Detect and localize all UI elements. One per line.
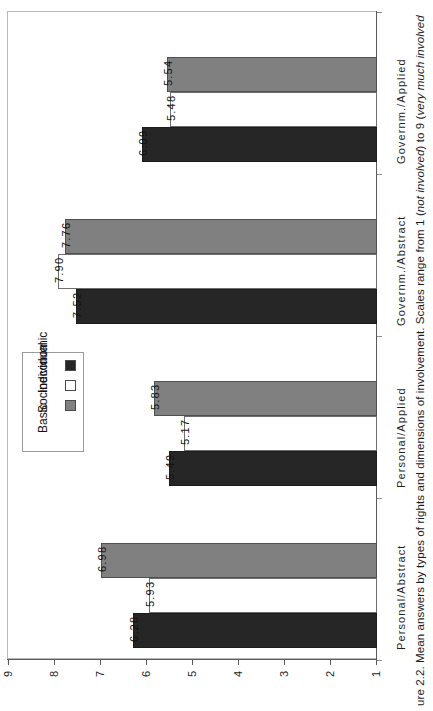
bar-label-governm-applied-basic: 5.54 <box>162 60 174 86</box>
bar-personal-abstract-basic <box>101 543 377 578</box>
value-tick-label-4: 4 <box>232 663 244 685</box>
bar-label-personal-abstract-individual: 6.28 <box>128 616 140 642</box>
bar-label-governm-abstract-individual: 7.52 <box>71 292 83 318</box>
bar-label-personal-abstract-socioeconomic: 5.93 <box>144 581 156 607</box>
bar-governm-abstract-individual <box>76 289 377 324</box>
bar-personal-applied-individual <box>169 451 377 486</box>
legend-item-basic: Basic <box>23 397 85 417</box>
category-label-governm-abstract: Governm./Abstract <box>395 216 407 326</box>
category-tick-4 <box>377 12 382 13</box>
bar-label-personal-applied-socioeconomic: 5.17 <box>179 419 191 445</box>
category-label-governm-applied: Governm./Applied <box>395 58 407 164</box>
legend: Individual Socioeconomic Basic <box>22 352 84 452</box>
bar-label-personal-abstract-basic: 6.98 <box>96 546 108 572</box>
legend-item-individual: Individual <box>23 357 85 377</box>
bar-label-governm-abstract-basic: 7.76 <box>60 222 72 248</box>
value-tick-label-6: 6 <box>140 663 152 685</box>
category-tick-2 <box>377 336 382 337</box>
bar-governm-applied-individual <box>142 127 377 162</box>
value-tick-label-5: 5 <box>186 663 198 685</box>
bar-label-personal-applied-individual: 5.49 <box>164 454 176 480</box>
caption-italic-very-much-involved: very much involved <box>414 15 426 115</box>
value-tick-label-9: 9 <box>2 663 14 685</box>
bar-personal-abstract-individual <box>133 613 377 648</box>
bar-governm-applied-socioeconomic <box>170 92 377 127</box>
legend-label-basic: Basic <box>36 404 50 433</box>
legend-item-socioeconomic: Socioeconomic <box>23 377 85 397</box>
category-tick-1 <box>377 498 382 499</box>
value-tick-label-1: 1 <box>370 663 382 685</box>
category-label-personal-applied: Personal/Applied <box>395 387 407 488</box>
bar-governm-abstract-basic <box>65 219 377 254</box>
caption-italic-not-involved: not involved <box>414 150 426 213</box>
bar-label-governm-abstract-socioeconomic: 7.90 <box>53 257 65 283</box>
bar-personal-applied-socioeconomic <box>184 416 377 451</box>
figure-caption: ure 2.2. Mean answers by types of rights… <box>414 15 426 706</box>
category-tick-0 <box>377 660 382 661</box>
bar-governm-abstract-socioeconomic <box>58 254 377 289</box>
value-tick-label-3: 3 <box>278 663 290 685</box>
legend-swatch-socioeconomic-icon <box>65 380 76 391</box>
bar-personal-abstract-socioeconomic <box>149 578 377 613</box>
bar-label-governm-applied-individual: 6.09 <box>137 130 149 156</box>
value-tick-label-7: 7 <box>94 663 106 685</box>
bar-label-personal-applied-basic: 5.83 <box>149 384 161 410</box>
bar-governm-applied-basic <box>167 57 377 92</box>
value-tick-label-8: 8 <box>48 663 60 685</box>
category-tick-3 <box>377 174 382 175</box>
bar-personal-applied-basic <box>154 381 377 416</box>
legend-swatch-individual-icon <box>65 360 76 371</box>
category-label-personal-abstract: Personal/Abstract <box>395 544 407 650</box>
legend-swatch-basic-icon <box>65 400 76 411</box>
value-tick-label-2: 2 <box>324 663 336 685</box>
bar-label-governm-applied-socioeconomic: 5.48 <box>165 95 177 121</box>
caption-part-1: ure 2.2. Mean answers by types of rights… <box>414 212 426 706</box>
caption-part-2: ) to 9 ( <box>414 116 426 150</box>
figure-root: 9 8 7 6 5 4 3 2 1 6.98 5.93 6.28 Persona… <box>0 0 433 711</box>
